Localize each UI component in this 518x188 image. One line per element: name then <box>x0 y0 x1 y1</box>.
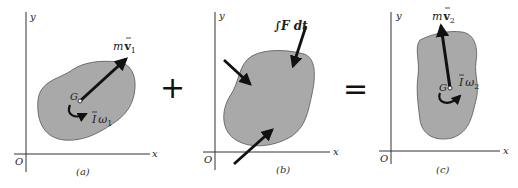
origin-label: O <box>204 154 212 165</box>
center-label-a: G <box>70 91 78 102</box>
momentum-label-c: mv2 <box>432 8 455 25</box>
svg-text:mv2: mv2 <box>432 10 455 25</box>
panel-b: y x O ∫F dt (b) <box>203 10 339 175</box>
impulse-momentum-diagram: y x O G mv1 Iω1 (a) + y x <box>0 0 518 188</box>
panel-c: y x O G mv2 Iω2 (c) <box>379 8 509 175</box>
y-axis-label: y <box>395 10 402 21</box>
panel-a: y x O G mv1 Iω1 (a) <box>14 11 158 177</box>
y-axis-label: y <box>29 11 36 22</box>
caption-a: (a) <box>76 166 90 177</box>
plus-operator: + <box>160 70 185 105</box>
equals-operator: = <box>343 71 368 106</box>
center-label-c: G <box>439 82 447 93</box>
y-axis-label: y <box>218 10 225 21</box>
x-axis-label: x <box>152 148 158 159</box>
x-axis-label: x <box>503 145 509 156</box>
origin-label: O <box>380 153 388 164</box>
momentum-label-a: mv1 <box>113 38 136 55</box>
caption-c: (c) <box>436 164 450 175</box>
center-of-mass-c <box>448 86 452 90</box>
origin-label: O <box>15 156 23 167</box>
x-axis-label: x <box>333 146 339 157</box>
center-of-mass-a <box>78 99 82 103</box>
svg-text:mv1: mv1 <box>113 40 136 55</box>
impulse-label: ∫F dt <box>274 19 308 33</box>
caption-b: (b) <box>276 164 290 175</box>
rigid-body-a <box>38 61 135 140</box>
